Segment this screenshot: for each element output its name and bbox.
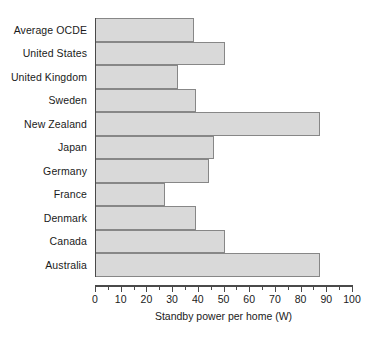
category-label: Canada (0, 230, 91, 254)
bar (96, 89, 196, 113)
bar-row (96, 136, 353, 160)
x-tick-label: 70 (269, 292, 281, 306)
x-tick-label: 60 (243, 292, 255, 306)
bar (96, 112, 320, 136)
x-tick-minor (288, 286, 289, 290)
bar (96, 42, 225, 66)
x-tick-minor (134, 286, 135, 290)
x-tick-minor (159, 286, 160, 290)
x-tick-label: 10 (115, 292, 127, 306)
x-tick-label: 30 (166, 292, 178, 306)
x-axis-title: Standby power per home (W) (95, 310, 352, 322)
bar (96, 230, 225, 254)
category-label: United Kingdom (0, 65, 91, 89)
category-label: Denmark (0, 206, 91, 230)
bar-row (96, 18, 353, 42)
category-label: Sweden (0, 89, 91, 113)
bar-row (96, 65, 353, 89)
x-tick-label: 90 (320, 292, 332, 306)
x-tick-label: 50 (218, 292, 230, 306)
category-label: United States (0, 42, 91, 66)
bar-row (96, 42, 353, 66)
x-tick-label: 20 (141, 292, 153, 306)
bar-row (96, 159, 353, 183)
bar (96, 159, 209, 183)
bar (96, 18, 194, 42)
x-tick-label: 40 (192, 292, 204, 306)
bar (96, 136, 214, 160)
category-label: New Zealand (0, 112, 91, 136)
bar-row (96, 112, 353, 136)
bar-row (96, 89, 353, 113)
category-label: France (0, 183, 91, 207)
bar-row (96, 230, 353, 254)
x-tick-minor (313, 286, 314, 290)
category-label: Japan (0, 136, 91, 160)
bar (96, 183, 165, 207)
category-label: Germany (0, 159, 91, 183)
bar (96, 253, 320, 277)
x-tick-minor (185, 286, 186, 290)
category-label: Average OCDE (0, 18, 91, 42)
x-tick-minor (211, 286, 212, 290)
x-tick-label: 80 (295, 292, 307, 306)
bar-series (96, 18, 353, 277)
x-tick-minor (339, 286, 340, 290)
x-axis-tick-labels: 0102030405060708090100 (95, 292, 352, 306)
bar-row (96, 183, 353, 207)
bar (96, 65, 178, 89)
x-tick-minor (236, 286, 237, 290)
y-axis-category-labels: Average OCDEUnited StatesUnited KingdomS… (0, 18, 91, 277)
x-tick-label: 100 (343, 292, 361, 306)
x-tick-minor (108, 286, 109, 290)
category-label: Australia (0, 253, 91, 277)
plot-area (95, 18, 353, 277)
x-tick-label: 0 (92, 292, 98, 306)
bar-chart: Average OCDEUnited StatesUnited KingdomS… (0, 0, 374, 338)
bar-row (96, 253, 353, 277)
x-tick-minor (262, 286, 263, 290)
bar (96, 206, 196, 230)
bar-row (96, 206, 353, 230)
